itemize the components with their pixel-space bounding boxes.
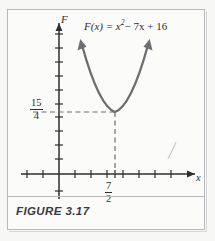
x-axis-label: x bbox=[196, 172, 201, 183]
y-axis bbox=[55, 23, 63, 199]
x-vertex-value-label: 7 2 bbox=[105, 180, 112, 204]
caption-divider bbox=[8, 196, 204, 197]
parabola-curve bbox=[78, 39, 153, 112]
figure-caption: FIGURE 3.17 bbox=[16, 205, 89, 217]
stray-pencil-mark bbox=[168, 142, 176, 159]
x-axis bbox=[21, 170, 195, 178]
y-axis-label: F bbox=[61, 13, 68, 25]
equation-label: F(x) = x2− 7x + 16 bbox=[84, 18, 167, 32]
figure-container: F(x) = x2− 7x + 16 F x 15 4 7 2 FIGURE 3… bbox=[0, 0, 215, 241]
y-vertex-value-label: 15 4 bbox=[30, 97, 43, 121]
vertex-guide-lines bbox=[33, 112, 115, 174]
